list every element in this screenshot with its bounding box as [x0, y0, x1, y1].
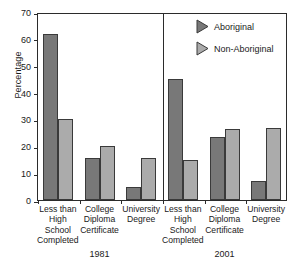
bar	[43, 34, 58, 201]
y-tick-label: 20	[10, 142, 31, 153]
bar-chart: Percentage 010203040506070 Aboriginal No…	[0, 0, 295, 267]
y-tick-mark	[34, 67, 38, 68]
x-axis-category-label: University Degree	[239, 204, 293, 225]
bar	[100, 146, 115, 200]
panel-year-label: 2001	[195, 249, 255, 259]
bar	[210, 137, 225, 200]
y-tick-label: 60	[10, 35, 31, 46]
y-tick-mark	[34, 175, 38, 176]
y-tick-mark	[34, 94, 38, 95]
bar	[251, 181, 266, 200]
y-axis-title: Percentage	[13, 35, 23, 115]
y-tick-label: 50	[10, 62, 31, 73]
bar	[85, 158, 100, 200]
y-tick-mark	[34, 40, 38, 41]
right-triangle-icon	[196, 19, 209, 34]
bar	[266, 128, 281, 201]
bar	[168, 79, 183, 200]
bar	[183, 160, 198, 200]
y-tick-mark	[34, 14, 38, 15]
legend-item-non-aboriginal: Non-Aboriginal	[196, 40, 274, 57]
y-tick-label: 70	[10, 8, 31, 19]
panel-year-label: 1981	[70, 249, 130, 259]
y-tick-label: 40	[10, 89, 31, 100]
y-tick-label: 0	[10, 196, 31, 207]
bar	[126, 187, 141, 200]
right-triangle-icon	[196, 41, 209, 56]
bar	[141, 158, 156, 200]
legend-item-aboriginal: Aboriginal	[196, 18, 274, 35]
bar	[225, 129, 240, 200]
y-tick-mark	[34, 121, 38, 122]
y-tick-label: 30	[10, 115, 31, 126]
legend-label-non-aboriginal: Non-Aboriginal	[214, 44, 274, 54]
y-tick-mark	[34, 148, 38, 149]
y-tick-label: 10	[10, 169, 31, 180]
panel-divider	[163, 14, 164, 200]
bar	[58, 119, 73, 200]
legend-label-aboriginal: Aboriginal	[214, 22, 254, 32]
chart-legend: Aboriginal Non-Aboriginal	[196, 18, 274, 62]
